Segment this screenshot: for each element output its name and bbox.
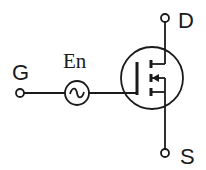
drain-terminal (161, 14, 169, 22)
body-arrow-icon (152, 74, 159, 82)
sine-wave-icon (70, 89, 84, 98)
gate-label: G (12, 60, 29, 85)
mosfet-noise-diagram: G En D S (0, 0, 206, 170)
drain-label: D (178, 8, 194, 33)
noise-source-label: En (63, 49, 87, 73)
gate-terminal (16, 89, 24, 97)
source-label: S (180, 144, 195, 169)
source-terminal (161, 149, 169, 157)
